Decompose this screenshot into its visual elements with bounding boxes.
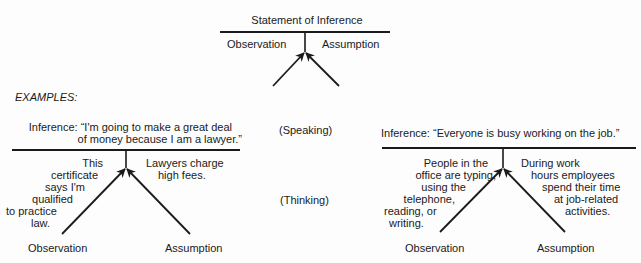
example-2-assumption-text-0: During work [521, 157, 580, 169]
example-1-assumption-text-0: Lawyers charge [146, 157, 224, 169]
example-2-observation-text-0: People in the [380, 157, 488, 169]
speaking-label: (Speaking) [279, 124, 332, 136]
example-2-observation-text-3: telephone, [380, 193, 455, 205]
example-1-inference-line1: Inference: “I'm going to make a great de… [10, 121, 232, 133]
thinking-label: (Thinking) [280, 194, 329, 206]
example-1-observation-text-1: certificate [0, 169, 98, 181]
example-1-observation-text-4: to practice [6, 205, 57, 217]
example-2-assumption-text-2: spend their time [542, 181, 620, 193]
example-2-observation-text-1: office are typing, [380, 169, 496, 181]
example-2-observation-text-2: using the [380, 181, 466, 193]
generic-observation-label: Observation [227, 38, 286, 50]
example-1-assumption-label: Assumption [165, 242, 222, 254]
example-2-observation-label: Observation [405, 242, 464, 254]
example-1-observation-label: Observation [28, 242, 87, 254]
example-2-assumption-text-4: activities. [565, 205, 610, 217]
example-2-assumption-text-3: at job-related [554, 193, 618, 205]
example-2-assumption-text-1: hours employees [531, 169, 615, 181]
example-1-inference-line2: of money because I am a lawyer.” [10, 133, 242, 145]
example-1-observation-text-3: qualified [0, 193, 73, 205]
example-2-observation-text-4: reading, or [384, 205, 437, 217]
examples-heading: EXAMPLES: [15, 91, 77, 103]
example-2-observation-text-5: writing. [389, 217, 424, 229]
example-2-inference: Inference: “Everyone is busy working on … [381, 127, 619, 139]
example-2-assumption-label: Assumption [537, 242, 594, 254]
example-1-assumption-text-1: high fees. [158, 169, 206, 181]
example-1-observation-text-2: says I'm [0, 181, 85, 193]
example-1-observation-text-0: This [0, 157, 103, 169]
generic-assumption-label: Assumption [322, 38, 379, 50]
example-1-observation-text-5: law. [31, 217, 50, 229]
generic-title: Statement of Inference [232, 14, 382, 26]
